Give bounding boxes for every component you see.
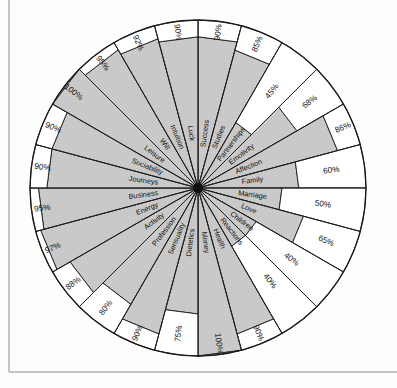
- life-wheel-chart: SuccessStudiesPartnershipsEmotivityAffec…: [0, 0, 397, 388]
- page-frame: SuccessStudiesPartnershipsEmotivityAffec…: [0, 0, 397, 388]
- center-hub: [193, 183, 203, 193]
